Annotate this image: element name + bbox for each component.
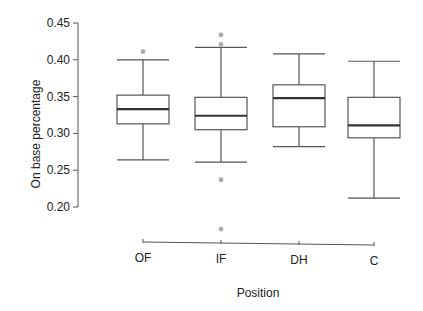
y-tick-label: 0.35 [47, 90, 71, 104]
iqr-box [273, 85, 325, 127]
outlier-point [219, 42, 224, 47]
y-axis-title: On base percentage [29, 79, 43, 188]
x-tick-label-if: IF [216, 252, 227, 266]
y-axis: 0.200.250.300.350.400.45 [47, 16, 78, 214]
y-tick-label: 0.20 [47, 200, 71, 214]
box-if [195, 32, 247, 231]
x-tick-label-dh: DH [290, 253, 307, 267]
x-axis-title: Position [237, 286, 280, 300]
y-tick-label: 0.45 [47, 16, 71, 30]
iqr-box [195, 97, 247, 129]
outlier-point [219, 177, 224, 182]
box-dh [273, 54, 325, 147]
x-tick-label-of: OF [135, 251, 152, 265]
iqr-box [348, 97, 400, 137]
x-tick-label-c: C [370, 254, 379, 268]
outlier-point [219, 32, 224, 37]
y-tick-label: 0.30 [47, 126, 71, 140]
box-of [117, 49, 169, 160]
y-tick-label: 0.40 [47, 53, 71, 67]
boxes [117, 32, 400, 231]
box-c [348, 61, 400, 198]
outlier-point [219, 227, 224, 232]
y-tick-label: 0.25 [47, 163, 71, 177]
outlier-point [141, 49, 146, 54]
box-plot: 0.200.250.300.350.400.45 OFIFDHC On base… [0, 0, 423, 311]
x-axis: OFIFDHC [135, 239, 379, 268]
